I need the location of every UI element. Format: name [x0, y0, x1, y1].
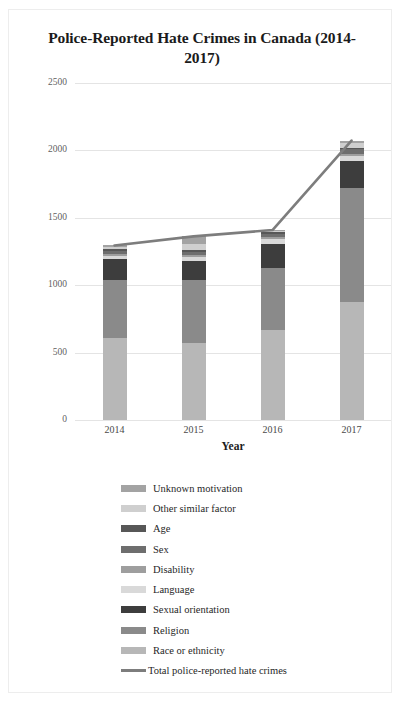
legend-item-label: Race or ethnicity	[153, 645, 225, 656]
y-tick-label: 1000	[27, 279, 67, 289]
legend-item-label: Religion	[153, 625, 189, 636]
legend-item-label: Disability	[153, 564, 194, 575]
legend-item[interactable]: Sex	[121, 539, 381, 559]
legend-item-label: Total police-reported hate crimes	[148, 665, 287, 676]
legend-swatch-icon	[121, 546, 146, 553]
total-line-series	[75, 83, 391, 420]
y-tick-label: 2500	[27, 77, 67, 87]
x-tick-label: 2015	[164, 424, 224, 435]
y-tick-label: 500	[27, 347, 67, 357]
legend-item[interactable]: Total police-reported hate crimes	[121, 661, 381, 681]
legend-swatch-icon	[121, 566, 146, 573]
legend-item[interactable]: Race or ethnicity	[121, 640, 381, 660]
legend-swatch-icon	[121, 485, 146, 492]
legend-swatch-icon	[121, 586, 146, 593]
chart-frame: Police-Reported Hate Crimes in Canada (2…	[8, 9, 392, 693]
legend-swatch-icon	[121, 647, 146, 654]
y-axis-title: # of Hate Crimes	[0, 107, 1, 190]
chart-title: Police-Reported Hate Crimes in Canada (2…	[39, 28, 365, 69]
legend-item-label: Sex	[153, 544, 169, 555]
legend-item[interactable]: Religion	[121, 620, 381, 640]
legend-line-icon	[121, 669, 146, 672]
x-tick-label: 2017	[322, 424, 382, 435]
gridline	[75, 420, 391, 421]
legend-swatch-icon	[121, 505, 146, 512]
x-tick-label: 2016	[243, 424, 303, 435]
plot-area: 05001000150020002500	[75, 83, 391, 420]
x-axis-title: Year	[75, 440, 391, 452]
legend-item[interactable]: Disability	[121, 559, 381, 579]
legend-swatch-icon	[121, 606, 146, 613]
legend-item[interactable]: Unknown motivation	[121, 478, 381, 498]
legend-swatch-icon	[121, 525, 146, 532]
y-tick-label: 1500	[27, 212, 67, 222]
legend-item[interactable]: Other similar factor	[121, 498, 381, 518]
x-tick-label: 2014	[85, 424, 145, 435]
chart-legend: Unknown motivationOther similar factorAg…	[121, 478, 381, 681]
legend-item-label: Unknown motivation	[153, 483, 243, 494]
legend-item-label: Age	[153, 523, 171, 534]
y-tick-label: 2000	[27, 144, 67, 154]
legend-item[interactable]: Sexual orientation	[121, 600, 381, 620]
legend-item-label: Language	[153, 584, 194, 595]
legend-item[interactable]: Age	[121, 519, 381, 539]
legend-item[interactable]: Language	[121, 579, 381, 599]
legend-item-label: Sexual orientation	[153, 604, 230, 615]
legend-item-label: Other similar factor	[153, 503, 236, 514]
y-tick-label: 0	[27, 414, 67, 424]
legend-swatch-icon	[121, 627, 146, 634]
